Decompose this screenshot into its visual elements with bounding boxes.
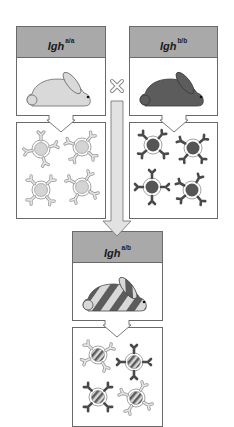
arrow-cross-to-offspring	[103, 101, 131, 236]
b-cell-allotype-a	[119, 382, 152, 414]
rabbit-icon-offspring	[83, 275, 146, 311]
b-cell	[65, 132, 97, 163]
b-cell	[176, 174, 205, 205]
arrow-offspring-to-cells	[103, 320, 131, 337]
arrow-parent-b-to-cells	[160, 115, 188, 132]
parent-a-b-cells	[24, 132, 98, 205]
b-cell	[138, 130, 168, 158]
arrow-parent-a-to-cells	[47, 115, 75, 132]
b-cell	[24, 132, 58, 166]
b-cell-allotype-b	[117, 345, 151, 379]
b-cell	[135, 170, 169, 204]
offspring-b-cells	[81, 341, 152, 414]
parent-b-b-cells	[135, 130, 208, 205]
cross-symbol-icon	[112, 81, 122, 91]
b-cell	[66, 171, 98, 203]
b-cell	[27, 176, 55, 205]
b-cell-allotype-a	[81, 341, 114, 371]
b-cell-allotype-b	[84, 383, 112, 411]
b-cell	[177, 135, 208, 163]
rabbit-icon-parent-b	[140, 70, 203, 106]
rabbit-icon-parent-a	[27, 70, 90, 106]
